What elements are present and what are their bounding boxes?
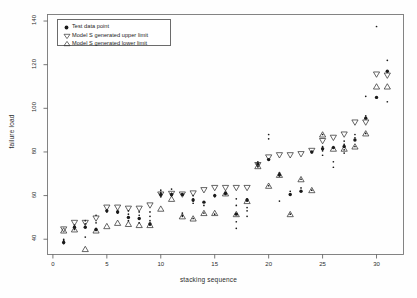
y-tick-label: 100 — [31, 99, 37, 115]
y-tick-label: 120 — [31, 56, 37, 72]
y-axis-label: failure load — [8, 97, 15, 167]
x-tick-label: 30 — [369, 261, 385, 267]
legend-label-upper-limit: Model S generated upper limit — [72, 32, 148, 38]
legend-box: Test data point Model S generated upper … — [57, 19, 171, 46]
legend-label-test-point: Test data point — [72, 23, 109, 29]
legend-entry-upper-limit: Model S generated upper limit — [61, 31, 148, 39]
x-axis-label: stacking sequence — [0, 276, 417, 283]
y-tick-label: 60 — [31, 187, 37, 203]
up-triangle-icon — [61, 34, 72, 52]
y-tick-label: 140 — [31, 12, 37, 28]
x-tick-label: 25 — [315, 261, 331, 267]
legend-entry-lower-limit: Model S generated lower limit — [61, 39, 147, 47]
x-tick-label: 10 — [153, 261, 169, 267]
chart-figure: Test data point Model S generated upper … — [0, 0, 417, 298]
x-tick-label: 15 — [207, 261, 223, 267]
y-tick-label: 40 — [31, 230, 37, 246]
x-tick-label: 5 — [99, 261, 115, 267]
legend-label-lower-limit: Model S generated lower limit — [72, 40, 147, 46]
y-tick-label: 80 — [31, 143, 37, 159]
x-tick-label: 0 — [45, 261, 61, 267]
x-tick-label: 20 — [261, 261, 277, 267]
